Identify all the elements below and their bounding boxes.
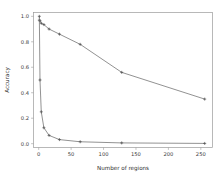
lower-accuracy-curve	[38, 15, 206, 145]
x-axis-tick-labels: 050100150200250	[37, 151, 206, 157]
x-axis-ticks	[39, 148, 201, 150]
y-tick-label: 0.4	[21, 90, 30, 96]
x-tick-label: 50	[68, 151, 75, 157]
x-tick-label: 0	[37, 151, 40, 157]
y-axis-ticks	[31, 16, 33, 143]
series-polyline	[39, 16, 204, 143]
y-axis-tick-labels: 0.00.20.40.60.81.0	[21, 13, 30, 146]
chart-plot-area: 050100150200250 0.00.20.40.60.81.0 Numbe…	[0, 0, 223, 177]
y-tick-label: 1.0	[21, 13, 29, 19]
x-tick-label: 250	[196, 151, 206, 157]
chart-figure: 050100150200250 0.00.20.40.60.81.0 Numbe…	[0, 0, 223, 177]
x-tick-label: 100	[99, 151, 109, 157]
x-tick-label: 150	[131, 151, 141, 157]
y-tick-label: 0.8	[21, 39, 29, 45]
x-axis-title: Number of regions	[97, 165, 149, 172]
plot-frame	[34, 13, 213, 148]
upper-accuracy-curve	[38, 19, 206, 101]
data-series-layer	[38, 15, 206, 145]
series-polyline	[39, 20, 204, 99]
y-axis-title: Accuracy	[4, 67, 11, 93]
y-tick-label: 0.6	[21, 64, 29, 70]
y-tick-label: 0.0	[21, 141, 29, 147]
y-tick-label: 0.2	[21, 115, 29, 121]
x-tick-label: 200	[163, 151, 173, 157]
